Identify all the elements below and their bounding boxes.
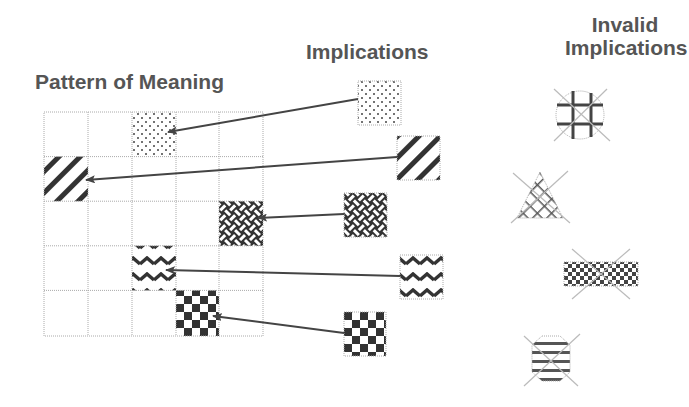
implication-zigzag xyxy=(400,255,443,299)
grid-cell-zigzag xyxy=(132,246,176,291)
grid-cell-weave xyxy=(219,201,263,246)
implication-weave xyxy=(344,193,387,237)
implications-column xyxy=(344,81,443,356)
grid-cell-checker xyxy=(176,290,219,336)
invalid-rectangle-checker xyxy=(564,249,638,299)
grid-cell-dots xyxy=(132,112,176,157)
arrow-stripes xyxy=(86,157,397,180)
invalid-circle-grid xyxy=(554,89,610,141)
diagram-canvas xyxy=(0,0,689,407)
arrow-checker xyxy=(213,316,344,333)
implication-dots xyxy=(358,81,401,125)
invalid-triangle-crosshatch xyxy=(511,171,570,223)
arrow-zigzag xyxy=(166,270,400,276)
implication-stripes xyxy=(397,136,440,180)
invalid-implications-column xyxy=(511,89,638,386)
implication-checker xyxy=(344,312,386,356)
invalid-circle-stripes xyxy=(524,334,580,386)
grid-cell-stripes xyxy=(44,157,88,202)
arrow-weave xyxy=(258,214,344,218)
meaning-grid xyxy=(44,112,263,336)
